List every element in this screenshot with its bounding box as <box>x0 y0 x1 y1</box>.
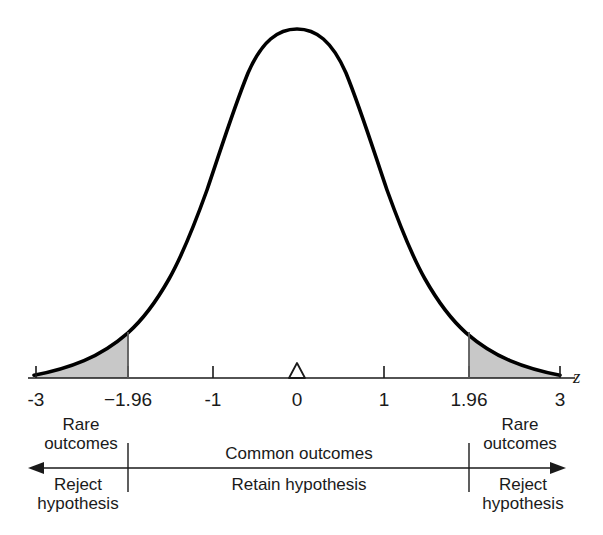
tick-label--1.96: −1.96 <box>104 389 152 411</box>
tick-label-1: 1 <box>379 389 390 411</box>
left-reject-hypothesis-label: Reject hypothesis <box>37 475 118 514</box>
left-rare-line-2: outcomes <box>44 434 118 453</box>
normal-distribution-figure: -3 −1.96 -1 0 1 1.96 3 z Rare outcomes R… <box>0 0 603 535</box>
tick-label-3: 3 <box>555 389 566 411</box>
left-reject-line-1: Reject <box>37 475 118 494</box>
right-rare-line-1: Rare <box>483 415 557 434</box>
right-rare-line-2: outcomes <box>483 434 557 453</box>
left-rare-outcomes-label: Rare outcomes <box>44 415 118 454</box>
z-axis-variable-label: z <box>573 366 580 388</box>
retain-hypothesis-label: Retain hypothesis <box>231 475 366 494</box>
tick-label--3: -3 <box>28 389 45 411</box>
center-triangle-marker <box>289 363 305 378</box>
left-rare-line-1: Rare <box>44 415 118 434</box>
arrowhead-right-icon <box>550 462 566 474</box>
normal-curve <box>34 29 560 375</box>
right-rare-outcomes-label: Rare outcomes <box>483 415 557 454</box>
tick-label-1.96: 1.96 <box>451 389 488 411</box>
arrowhead-left-icon <box>28 462 44 474</box>
right-reject-line-1: Reject <box>482 475 563 494</box>
right-reject-line-2: hypothesis <box>482 494 563 513</box>
tick-label--1: -1 <box>205 389 222 411</box>
common-outcomes-label: Common outcomes <box>225 444 372 463</box>
tick-label-0: 0 <box>292 389 303 411</box>
left-reject-line-2: hypothesis <box>37 494 118 513</box>
right-reject-hypothesis-label: Reject hypothesis <box>482 475 563 514</box>
